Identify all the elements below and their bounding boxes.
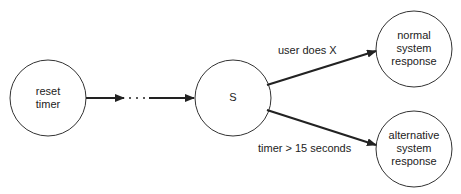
ellipsis-dot [136,97,138,99]
label-line: S [193,91,273,104]
normal-label: normal system response [374,29,454,68]
ellipsis-dot [129,97,131,99]
label-line: response [374,155,454,168]
edge-label-timer: timer > 15 seconds [258,142,351,154]
edge-s-to-alternative [267,110,376,145]
label-line: normal [374,29,454,42]
label-line: system [374,42,454,55]
label-line: reset [8,85,88,98]
label-line: system [374,142,454,155]
reset-timer-label: reset timer [8,85,88,111]
label-line: response [374,55,454,68]
ellipsis-dot [143,97,145,99]
s-label: S [193,91,273,104]
label-line: timer [8,98,88,111]
label-line: alternative [374,129,454,142]
edge-label-user-does-x: user does X [278,44,337,56]
alternative-label: alternative system response [374,129,454,168]
edge-s-to-normal [267,51,376,85]
